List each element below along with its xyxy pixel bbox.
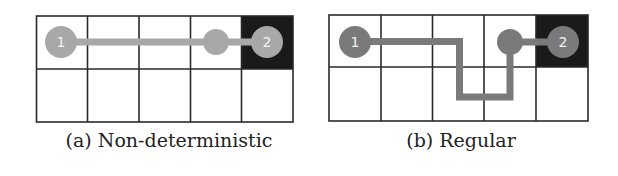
node-end: 2 bbox=[251, 26, 283, 58]
node-start-label: 1 bbox=[351, 34, 360, 50]
node-end-label: 2 bbox=[263, 34, 272, 50]
panel-b-regular: 1 2 (b) Regular bbox=[309, 0, 618, 176]
node-intermediate bbox=[497, 29, 523, 55]
node-start: 1 bbox=[339, 26, 371, 58]
node-end-label: 2 bbox=[559, 34, 568, 50]
path-b bbox=[355, 42, 563, 98]
node-start: 1 bbox=[45, 26, 77, 58]
node-end: 2 bbox=[547, 26, 579, 58]
caption-b: (b) Regular bbox=[401, 129, 521, 151]
caption-a: (a) Non-deterministic bbox=[58, 129, 280, 151]
node-intermediate bbox=[203, 29, 229, 55]
node-start-label: 1 bbox=[57, 34, 66, 50]
panel-a-non-deterministic: 1 2 (a) Non-deterministic bbox=[0, 0, 309, 176]
